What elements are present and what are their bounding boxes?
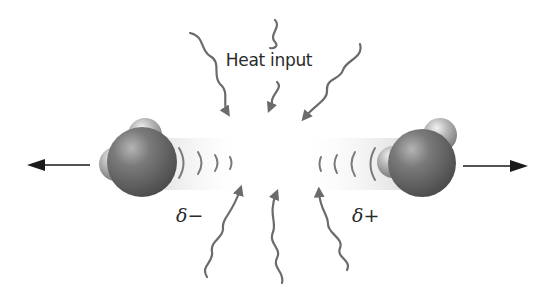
heat-arrow-bottom-right	[319, 192, 348, 270]
diagram-canvas: Heat input δ− δ+	[0, 0, 557, 297]
right-motion-arrow	[463, 160, 528, 172]
partial-negative-charge-label: δ−	[176, 204, 203, 226]
partial-positive-charge-label: δ+	[352, 204, 379, 226]
heat-input-label: Heat input	[217, 50, 321, 70]
right-oxygen-atom	[388, 129, 456, 197]
diagram-svg	[0, 0, 557, 297]
heat-arrow-top-left	[190, 33, 227, 112]
heat-arrow-bottom-center	[272, 194, 283, 283]
heat-arrow-top-center-upper	[270, 20, 277, 48]
heat-arrow-bottom-left	[205, 190, 240, 277]
left-oxygen-atom	[107, 127, 177, 197]
left-water-molecule	[99, 118, 177, 197]
left-motion-arrow	[27, 159, 90, 171]
heat-arrow-top-center	[270, 82, 279, 108]
